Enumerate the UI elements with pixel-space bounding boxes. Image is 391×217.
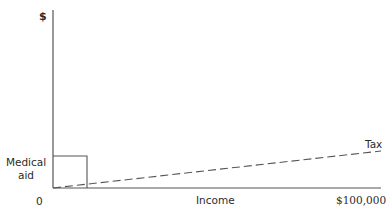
origin-label: 0 (36, 195, 43, 207)
medical-aid-line (53, 156, 87, 188)
medical-aid-label: Medical aid (2, 156, 50, 182)
x-max-tick: $100,000 (336, 194, 386, 206)
tax-line (53, 151, 381, 188)
y-axis-label: $ (39, 11, 47, 23)
medical-aid-label-line1: Medical (2, 156, 50, 169)
medical-aid-label-line2: aid (2, 169, 50, 182)
chart-plot (0, 0, 391, 217)
x-axis-label: Income (196, 194, 235, 206)
chart: $ 0 Income $100,000 Medical aid Tax (0, 0, 391, 217)
tax-label: Tax (365, 138, 382, 150)
